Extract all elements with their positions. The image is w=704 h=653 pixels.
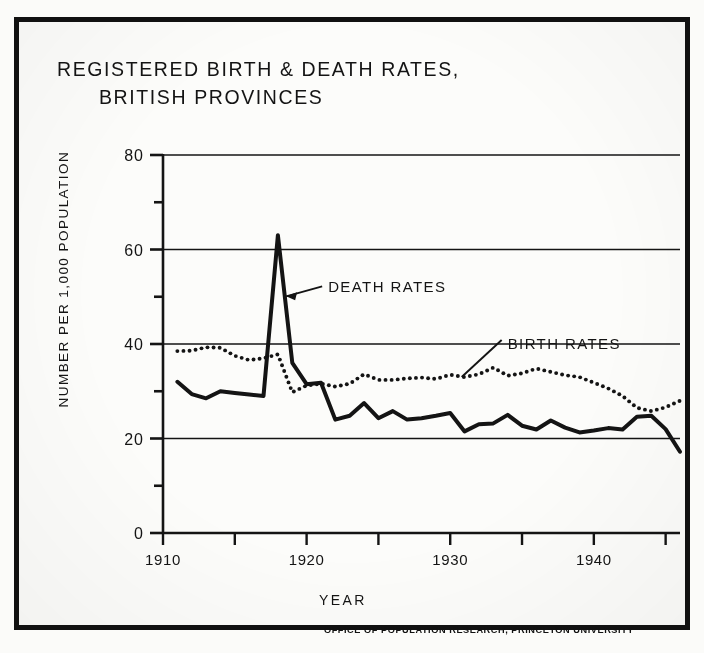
series-dot	[637, 406, 641, 410]
series-dot	[384, 378, 388, 382]
series-dot	[350, 380, 354, 384]
series-dot	[278, 358, 282, 362]
series-dot	[566, 374, 570, 378]
series-dot	[655, 408, 659, 412]
series-dot	[212, 346, 216, 350]
series-dot	[414, 376, 418, 380]
series-dot	[372, 376, 376, 380]
series-dot	[366, 374, 370, 378]
series-dot	[408, 376, 412, 380]
series-dot	[287, 380, 291, 384]
series-dot	[672, 402, 676, 406]
series-dot	[206, 345, 210, 349]
series-dot	[595, 382, 599, 386]
series-dot	[252, 358, 256, 362]
series-dot	[420, 376, 424, 380]
series-birth-rates	[175, 345, 681, 413]
series-dot	[578, 375, 582, 379]
series-dot	[666, 404, 670, 408]
y-tick-label-0: 0	[134, 525, 144, 542]
series-dot	[643, 408, 647, 412]
series-dot	[426, 376, 430, 380]
series-dot	[345, 382, 349, 386]
y-tick-label-20: 20	[124, 431, 144, 448]
series-dot	[303, 384, 307, 388]
series-dot	[513, 373, 517, 377]
series-dot	[584, 378, 588, 382]
series-dot	[218, 346, 222, 350]
series-dot	[507, 374, 511, 378]
series-dot	[228, 351, 232, 355]
y-tick-label-60: 60	[124, 242, 144, 259]
birth-rates-label: BIRTH RATES	[508, 335, 621, 352]
chart-plate: REGISTERED BIRTH & DEATH RATES, BRITISH …	[14, 17, 690, 630]
series-dot	[501, 371, 505, 375]
series-dot	[519, 372, 523, 376]
series-dot	[270, 354, 274, 358]
series-dot	[377, 378, 381, 382]
series-dot	[282, 369, 286, 373]
series-dot	[361, 373, 365, 377]
series-dot	[315, 382, 319, 386]
series-dot	[432, 377, 436, 381]
series-dot	[607, 387, 611, 391]
series-dot	[327, 383, 331, 387]
series-dot	[627, 399, 631, 403]
credit-line: OFFICE OF POPULATION RESEARCH, PRINCETON…	[324, 625, 634, 635]
y-tick-label-80: 80	[124, 147, 144, 164]
series-dot	[309, 383, 313, 387]
series-dot	[622, 396, 626, 400]
series-dot	[525, 370, 529, 374]
x-tick-label-1920: 1920	[289, 551, 325, 568]
series-dot	[289, 386, 293, 390]
series-dot	[496, 368, 500, 372]
series-dot	[175, 349, 179, 353]
death-rates-arrowhead	[286, 292, 297, 300]
series-dot	[333, 384, 337, 388]
series-dot	[560, 373, 564, 377]
series-dot	[572, 374, 576, 378]
x-tick-label-1930: 1930	[432, 551, 468, 568]
series-dot	[355, 377, 359, 381]
series-dot	[632, 403, 636, 407]
series-dot	[468, 374, 472, 378]
series-dot	[678, 399, 682, 403]
series-dot	[194, 348, 198, 352]
series-dot	[182, 349, 186, 353]
series-dot	[536, 367, 540, 371]
series-dot	[444, 374, 448, 378]
series-dot	[649, 409, 653, 413]
series-dot	[188, 349, 192, 353]
series-dot	[612, 389, 616, 393]
death-rates-label: DEATH RATES	[328, 278, 446, 295]
series-dot	[258, 357, 262, 361]
series-dot	[200, 346, 204, 350]
series-dot	[240, 356, 244, 360]
plot-area: 0204060801910192019301940DEATH RATESBIRT…	[19, 22, 685, 625]
x-tick-label-1940: 1940	[576, 551, 612, 568]
series-dot	[542, 368, 546, 372]
series-dot	[402, 377, 406, 381]
series-dot	[450, 373, 454, 377]
series-dot	[246, 358, 250, 362]
series-dot	[339, 383, 343, 387]
series-dot	[617, 392, 621, 396]
y-tick-label-40: 40	[124, 336, 144, 353]
series-dot	[321, 382, 325, 386]
series-dot	[396, 377, 400, 381]
series-dot	[601, 384, 605, 388]
series-dot	[223, 348, 227, 352]
series-dot	[264, 356, 268, 360]
series-dot	[284, 375, 288, 379]
series-dot	[531, 368, 535, 372]
series-dot	[661, 406, 665, 410]
x-tick-label-1910: 1910	[145, 551, 181, 568]
series-dot	[456, 374, 460, 378]
series-dot	[297, 387, 301, 391]
series-dot	[280, 363, 284, 367]
figure-page: REGISTERED BIRTH & DEATH RATES, BRITISH …	[0, 0, 704, 653]
series-dot	[480, 371, 484, 375]
series-dot	[590, 380, 594, 384]
series-dot	[438, 376, 442, 380]
series-dot	[474, 373, 478, 377]
